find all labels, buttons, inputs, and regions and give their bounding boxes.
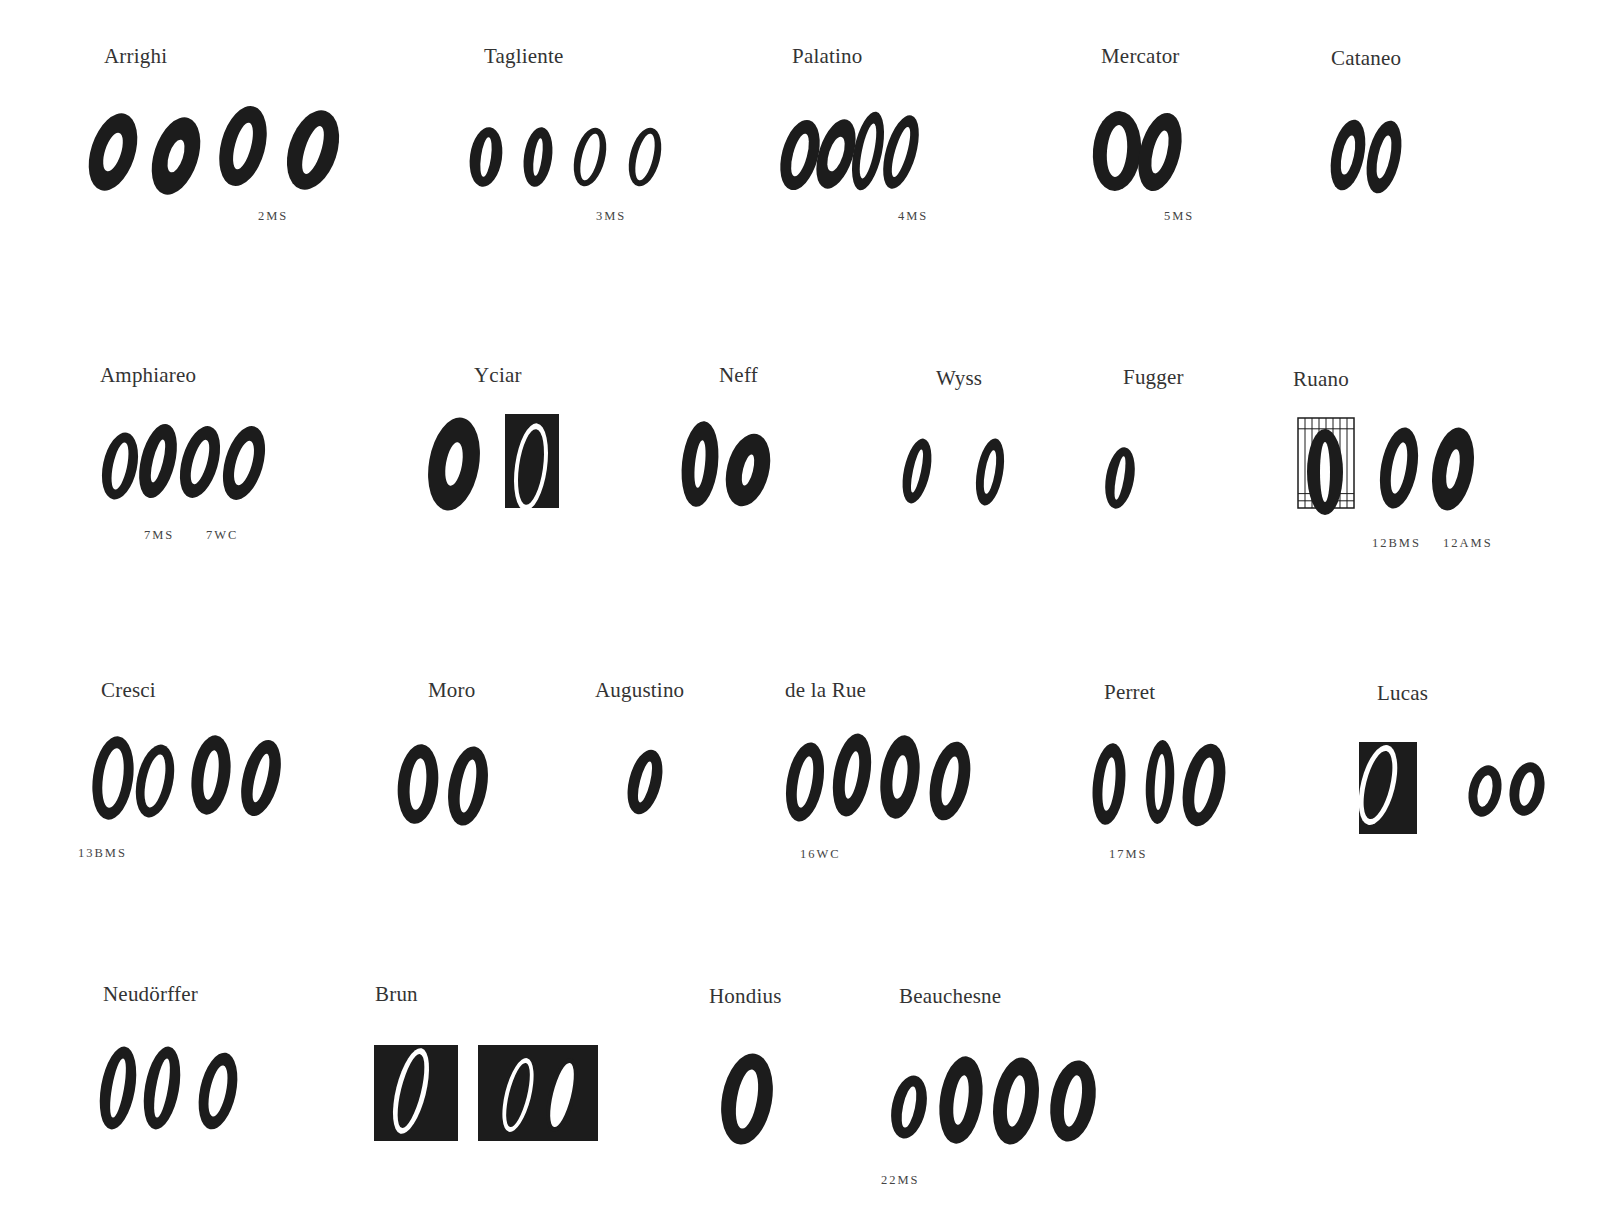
source-label: 3MS [596, 209, 626, 224]
specimen-glyph-group [1101, 445, 1139, 511]
specimen-glyph-group [80, 101, 349, 201]
specimen-glyph-group [714, 1049, 779, 1148]
specimen-name: Cresci [101, 678, 156, 703]
specimen-name: Beauchesne [899, 984, 1001, 1009]
specimen-glyph-group [1325, 116, 1407, 196]
specimen-name: Hondius [709, 984, 782, 1009]
specimen-glyph-group [678, 419, 778, 511]
specimen-glyph-group [780, 731, 977, 825]
specimen-glyph-group [87, 733, 288, 823]
specimen-glyph-group [466, 124, 667, 189]
specimen-name: Palatino [792, 44, 862, 69]
source-label: 12BMS [1372, 536, 1421, 551]
inverted-box [478, 1045, 598, 1141]
specimen-glyph-group [421, 413, 559, 514]
specimen-name: Fugger [1123, 365, 1184, 390]
zero-glyph-layer [0, 0, 1614, 1232]
specimen-glyph-group [1298, 418, 1480, 515]
source-label: 4MS [898, 209, 928, 224]
specimen-name: Neff [719, 363, 758, 388]
source-label: 7MS [144, 528, 174, 543]
source-label: 12AMS [1443, 536, 1493, 551]
specimen-name: Arrighi [104, 44, 167, 69]
specimen-name: Perret [1104, 680, 1155, 705]
specimen-name: Wyss [936, 366, 982, 391]
source-label: 13BMS [78, 846, 127, 861]
specimen-name: Augustino [595, 678, 684, 703]
specimen-name: Neudörffer [103, 982, 198, 1007]
source-label: 7WC [206, 528, 238, 543]
source-label: 17MS [1109, 847, 1148, 862]
specimen-name: Yciar [474, 363, 522, 388]
specimen-name: de la Rue [785, 678, 866, 703]
specimen-glyph-group [886, 1054, 1102, 1149]
specimen-glyph-group [96, 420, 272, 505]
specimen-name: Tagliente [484, 44, 564, 69]
specimen-name: Lucas [1377, 681, 1428, 706]
specimen-name: Mercator [1101, 44, 1180, 69]
specimen-glyph-group [394, 742, 494, 829]
specimen-glyph-group [773, 109, 926, 194]
specimen-glyph-group [1352, 741, 1550, 834]
specimen-glyph-group [1090, 108, 1189, 195]
specimen-name: Amphiareo [100, 363, 196, 388]
source-label: 22MS [881, 1173, 920, 1188]
source-label: 5MS [1164, 209, 1194, 224]
source-label: 2MS [258, 209, 288, 224]
specimen-name: Ruano [1293, 367, 1349, 392]
specimen-glyph-group [897, 436, 1008, 508]
specimen-name: Moro [428, 678, 475, 703]
specimen-glyph-group [1089, 739, 1232, 830]
source-label: 16WC [800, 847, 841, 862]
specimen-name: Brun [375, 982, 418, 1007]
specimen-name: Cataneo [1331, 46, 1401, 71]
specimen-glyph-group [621, 746, 668, 818]
specimen-glyph-group [94, 1044, 244, 1133]
specimen-page: Arrighi2MSTagliente3MSPalatino4MSMercato… [0, 0, 1614, 1232]
specimen-glyph-group [374, 1045, 598, 1141]
